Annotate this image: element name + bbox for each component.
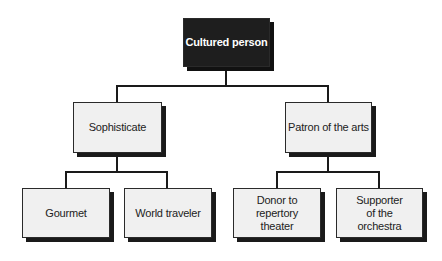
connector-level1-horizontal	[116, 85, 329, 87]
node-label: Patron of the arts	[288, 121, 369, 134]
connector-sophisticate-children-horizontal	[65, 171, 168, 173]
connector-root-down	[225, 67, 227, 87]
node-label: Cultured person	[186, 36, 268, 49]
node-label: World traveler	[135, 207, 200, 220]
connector-to-supporter	[378, 171, 380, 188]
connector-patron-children-horizontal	[276, 171, 380, 173]
node-world-traveler: World traveler	[124, 188, 212, 238]
node-sophisticate: Sophisticate	[73, 102, 162, 153]
connector-to-sophisticate	[116, 85, 118, 102]
connector-to-patron	[327, 85, 329, 102]
connector-to-donor	[276, 171, 278, 188]
node-label: Gourmet	[45, 207, 86, 220]
node-cultured-person: Cultured person	[183, 18, 270, 67]
node-label: Supporter of the orchestra	[356, 194, 403, 233]
connector-patron-down	[327, 153, 329, 173]
node-supporter-of-the-orchestra: Supporter of the orchestra	[336, 188, 423, 238]
node-gourmet: Gourmet	[22, 188, 110, 238]
node-label: Donor to repertory theater	[256, 194, 298, 233]
connector-sophisticate-down	[116, 153, 118, 173]
connector-to-world-traveler	[166, 171, 168, 188]
node-label: Sophisticate	[89, 121, 147, 134]
connector-to-gourmet	[65, 171, 67, 188]
node-patron-of-the-arts: Patron of the arts	[285, 102, 372, 153]
node-donor-to-repertory-theater: Donor to repertory theater	[233, 188, 321, 238]
